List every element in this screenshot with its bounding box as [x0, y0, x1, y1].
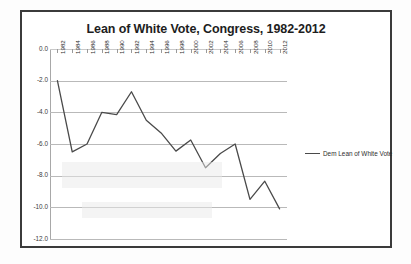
y-tick-label: -8.0 [22, 172, 48, 178]
legend-line-swatch [305, 153, 320, 154]
screenshot-canvas: Lean of White Vote, Congress, 1982-2012 … [0, 0, 411, 264]
legend-label-dem-lean-of-white-vote: Dem Lean of White Vote [323, 150, 392, 157]
y-tick-label: -4.0 [22, 109, 48, 115]
y-tick-label: -10.0 [22, 204, 48, 210]
scan-artifact [82, 202, 212, 218]
chart-title: Lean of White Vote, Congress, 1982-2012 [22, 22, 390, 36]
chart-legend: Dem Lean of White Vote [305, 150, 392, 157]
y-tick-label: -6.0 [22, 141, 48, 147]
series-line-Dem Lean of White Vote [57, 81, 279, 209]
y-tick-label: -2.0 [22, 77, 48, 83]
scan-artifact [62, 162, 222, 188]
chart-figure-frame: Lean of White Vote, Congress, 1982-2012 … [20, 10, 392, 248]
y-axis-tick-labels: 0.0-2.0-4.0-6.0-8.0-10.0-12.0 [22, 49, 48, 239]
y-tick-label: -12.0 [22, 236, 48, 242]
y-tick-label: 0.0 [22, 46, 48, 52]
gridline--12.0 [50, 239, 287, 240]
